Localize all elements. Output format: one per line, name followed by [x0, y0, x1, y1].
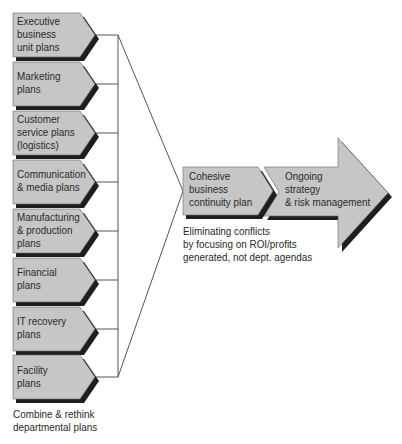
- plan-label-financial: Financialplans: [17, 266, 57, 292]
- plan-label-it-recovery: IT recoveryplans: [17, 315, 66, 341]
- ongoing-strategy-label: Ongoingstrategy& risk management: [285, 170, 370, 209]
- combine-caption: Combine & rethinkdepartmental plans: [13, 408, 97, 434]
- plan-label-executive: Executivebusinessunit plans: [17, 15, 60, 54]
- plan-label-customer-service: Customerservice plans(logistics): [17, 113, 75, 152]
- plan-label-marketing: Marketingplans: [17, 70, 60, 96]
- eliminating-conflicts-caption: Eliminating conflictsby focusing on ROI/…: [183, 225, 312, 264]
- cohesive-plan-label: Cohesivebusinesscontinuity plan: [189, 170, 252, 209]
- connector-lines: [96, 35, 183, 377]
- plan-label-communication: Communication& media plans: [17, 168, 86, 194]
- plan-label-facility: Facilityplans: [17, 364, 48, 390]
- plan-label-manufacturing: Manufacturing& productionplans: [17, 211, 80, 250]
